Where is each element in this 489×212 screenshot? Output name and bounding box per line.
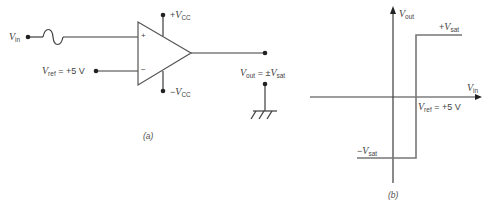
pos-supply-dot [161,13,166,18]
vref-label: Vref = +5 V [42,66,85,78]
pos-supply-label: +VCC [170,10,191,22]
minus-vsat-label: −Vsat [357,146,377,158]
sine-source-icon [43,30,63,45]
neg-supply-dot [161,89,166,94]
plus-terminal-label: + [141,32,146,40]
vout-axis-label: Vout [399,9,414,21]
diagram-canvas [0,0,489,212]
input-wire [28,30,138,45]
vin-label: Vin [9,32,20,44]
y-axis-arrow-icon [390,6,396,14]
vref-threshold-label: Vref = +5 V [418,102,461,114]
vin-axis-label: Vin [467,83,478,95]
vout-label: Vout = ±Vsat [240,68,285,80]
output-terminal-dot [263,51,268,56]
input-terminal-dot [26,35,31,40]
ref-terminal-dot [94,69,99,74]
ground-terminal-dot [263,82,268,87]
caption-b: (b) [388,190,398,200]
x-axis-arrow-icon [475,94,482,100]
plus-vsat-label: +Vsat [439,22,459,34]
ground-icon [251,84,277,119]
neg-supply-label: −VCC [170,87,191,99]
minus-terminal-label: − [141,66,146,74]
caption-a: (a) [143,131,153,141]
